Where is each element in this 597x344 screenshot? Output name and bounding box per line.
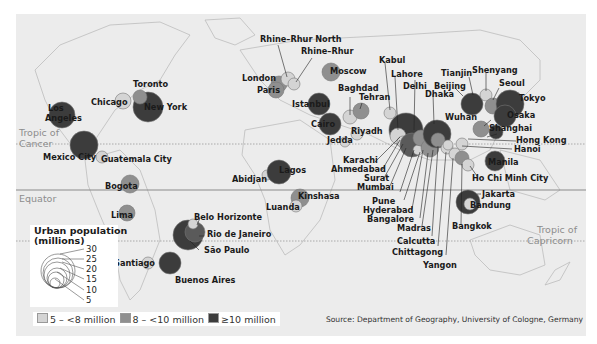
label-cairo: Cairo — [311, 119, 335, 129]
tropic-of-cancer-label-2: Cancer — [19, 138, 53, 149]
legend-label-medium: 8 – <10 million — [133, 314, 205, 325]
label-abidjan: Abidjan — [232, 174, 267, 184]
label-lahore: Lahore — [391, 69, 423, 79]
label-seoul: Seoul — [499, 78, 525, 88]
label-calcutta: Calcutta — [397, 236, 435, 246]
label-luanda: Luanda — [266, 202, 300, 212]
legend-item-large: ≥10 million — [208, 313, 276, 325]
label-rhine-rhur-north: Rhine–Rhur North — [260, 34, 342, 44]
label-ho-chi-minh-city: Ho Chi Minh City — [472, 173, 549, 183]
label-rio-de-janeiro: Rio de Janeiro — [207, 229, 272, 239]
label-los-angeles-2: Angeles — [45, 113, 82, 123]
label-tehran: Tehran — [359, 92, 390, 102]
label-new-york: New York — [144, 102, 188, 112]
legend-swatch-medium — [120, 313, 131, 323]
legend-swatch-small — [37, 313, 48, 323]
label-santiago: Santiago — [114, 258, 155, 268]
label-guatemala-city: Guatemala City — [101, 154, 173, 164]
label-moscow: Moscow — [330, 66, 367, 76]
megacities-map: Tropic of Cancer Equator Tropic of Capri… — [0, 0, 597, 344]
label-chicago: Chicago — [91, 97, 128, 107]
label-yangon: Yangon — [422, 260, 457, 270]
label-manila: Manila — [488, 157, 519, 167]
label-osaka: Osaka — [507, 110, 535, 120]
label-tokyo: Tokyo — [519, 93, 546, 103]
size-legend-title: Urban population (millions) — [34, 226, 127, 246]
label-mexico-city: Mexico City — [43, 152, 97, 162]
label-london: London — [242, 73, 276, 83]
label-los-angeles-1: Los — [48, 103, 64, 113]
category-legend: 5 – <8 million 8 – <10 million ≥10 milli… — [33, 312, 280, 326]
label-kinshasa: Kinshasa — [298, 191, 340, 201]
label-paris: Paris — [257, 85, 280, 95]
label-sao-paulo: São Paulo — [204, 245, 250, 255]
bubble-rhine-rhur[interactable] — [288, 78, 300, 90]
label-buenos-aires: Buenos Aires — [175, 275, 236, 285]
label-riyadh: Riyadh — [351, 126, 383, 136]
label-beijing: Beijing — [434, 81, 466, 91]
label-rhine-rhur: Rhine–Rhur — [301, 46, 354, 56]
bubble-hanoi[interactable] — [443, 140, 453, 150]
label-kabul: Kabul — [379, 55, 406, 65]
label-madras: Madras — [397, 223, 431, 233]
label-bogota: Bogota — [105, 181, 138, 191]
label-mumbai: Mumbai — [357, 182, 394, 192]
label-shanghai: Shanghai — [489, 123, 532, 133]
tropic-of-capricorn-label-1: Tropic of — [536, 224, 578, 235]
label-delhi: Delhi — [403, 81, 427, 91]
tropic-of-capricorn-label-2: Capricorn — [527, 235, 573, 246]
label-istanbul: Istanbul — [292, 99, 330, 109]
label-tianjin: Tianjin — [441, 68, 472, 78]
label-belo-horizonte: Belo Horizonte — [194, 212, 263, 222]
size-legend-title-line2: (millions) — [34, 236, 127, 246]
legend-swatch-large — [208, 313, 219, 323]
legend-label-large: ≥10 million — [221, 314, 276, 325]
label-jakarta: Jakarta — [481, 189, 515, 199]
label-hanoi: Hanoi — [514, 144, 541, 154]
legend-item-medium: 8 – <10 million — [120, 313, 205, 325]
legend-item-small: 5 – <8 million — [37, 313, 116, 325]
city-labels: Los Angeles Chicago Toronto New York Mex… — [43, 34, 567, 285]
source-note: Source: Department of Geography, Univers… — [326, 315, 583, 324]
label-bandung: Bandung — [470, 200, 511, 210]
tropic-of-cancer-label-1: Tropic of — [18, 127, 60, 138]
label-jedda: Jedda — [326, 135, 353, 145]
label-toronto: Toronto — [133, 79, 169, 89]
label-lagos: Lagos — [279, 165, 306, 175]
label-lima: Lima — [111, 210, 133, 220]
bubble-buenos-aires[interactable] — [159, 252, 181, 274]
legend-label-small: 5 – <8 million — [50, 314, 116, 325]
label-wuhan: Wuhan — [445, 112, 477, 122]
equator-label: Equator — [19, 193, 56, 204]
label-chittagong: Chittagong — [392, 247, 443, 257]
bubble-hong-kong[interactable] — [456, 138, 468, 150]
label-bangkok: Bangkok — [452, 221, 492, 231]
label-shenyang: Shenyang — [472, 65, 518, 75]
